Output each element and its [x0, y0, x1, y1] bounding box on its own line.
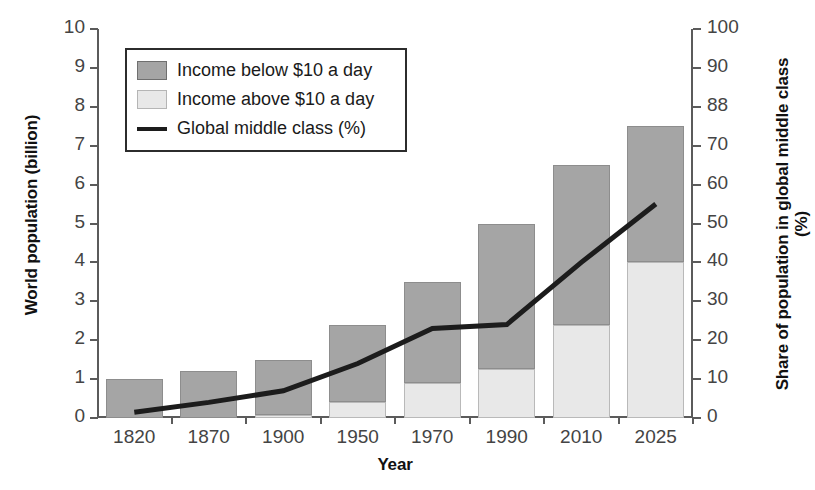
x-axis-tick-mark — [469, 418, 471, 424]
y-axis-right-tick-label: 10 — [707, 366, 759, 388]
y-axis-right-tick-label: 90 — [707, 55, 759, 77]
legend-item-middle-class: Global middle class (%) — [137, 114, 395, 143]
y-axis-right-tick-label: 0 — [707, 405, 759, 427]
y-axis-right-tick-mark — [693, 417, 701, 419]
x-axis-tick-mark — [543, 418, 545, 424]
y-axis-right-tick-label: 30 — [707, 288, 759, 310]
y-axis-right-tick-mark — [693, 223, 701, 225]
x-axis-tick-mark — [618, 418, 620, 424]
y-axis-left-tick-label: 0 — [39, 405, 85, 427]
y-axis-left-tick-label: 4 — [39, 249, 85, 271]
x-axis-tick-label: 1970 — [392, 426, 472, 448]
x-axis-tick-mark — [320, 418, 322, 424]
x-axis-tick-mark — [692, 418, 694, 424]
x-axis-tick-label: 2025 — [616, 426, 696, 448]
y-axis-left-tick-label: 8 — [39, 94, 85, 116]
x-axis-tick-mark — [245, 418, 247, 424]
y-axis-left-tick-label: 9 — [39, 55, 85, 77]
legend-item-label: Global middle class (%) — [177, 118, 366, 139]
y-axis-right-tick-mark — [693, 67, 701, 69]
y-axis-left-tick-label: 10 — [39, 16, 85, 38]
y-axis-right-tick-mark — [693, 106, 701, 108]
square-light-swatch-icon — [137, 90, 167, 109]
y-axis-right-tick-mark — [693, 184, 701, 186]
y-axis-left-tick-label: 6 — [39, 172, 85, 194]
y-axis-left-tick-label: 7 — [39, 133, 85, 155]
legend-item-income-above: Income above $10 a day — [137, 85, 395, 114]
y-axis-right-tick-label: 100 — [707, 16, 759, 38]
y-axis-right-tick-mark — [693, 261, 701, 263]
y-axis-left-tick-label: 2 — [39, 327, 85, 349]
y-axis-right-tick-label: 88 — [707, 94, 759, 116]
y-axis-left-tick-label: 1 — [39, 366, 85, 388]
legend-item-label: Income below $10 a day — [177, 60, 372, 81]
x-axis-tick-label: 1870 — [169, 426, 249, 448]
x-axis-tick-label: 2010 — [541, 426, 621, 448]
y-axis-right-tick-mark — [693, 28, 701, 30]
x-axis-title: Year — [97, 455, 693, 475]
y-axis-right-tick-label: 40 — [707, 249, 759, 271]
y-axis-right-tick-mark — [693, 145, 701, 147]
x-axis-tick-label: 1950 — [318, 426, 398, 448]
y-axis-right-tick-label: 50 — [707, 211, 759, 233]
y-axis-right-tick-label: 70 — [707, 133, 759, 155]
y-axis-left-tick-label: 3 — [39, 288, 85, 310]
chart-container: World population (billion) Share of popu… — [0, 0, 815, 490]
line-swatch-icon — [137, 119, 167, 138]
y-axis-right-tick-label: 20 — [707, 327, 759, 349]
y-axis-right-tick-label: 60 — [707, 172, 759, 194]
y-axis-left-tick-label: 5 — [39, 211, 85, 233]
legend-item-income-below: Income below $10 a day — [137, 56, 395, 85]
chart-legend: Income below $10 a day Income above $10 … — [125, 48, 407, 152]
legend-item-label: Income above $10 a day — [177, 89, 374, 110]
x-axis-tick-label: 1900 — [243, 426, 323, 448]
y-axis-right-title: Share of population in global middle cla… — [773, 44, 811, 404]
y-axis-right-tick-mark — [693, 378, 701, 380]
y-axis-right-tick-mark — [693, 300, 701, 302]
square-dark-swatch-icon — [137, 61, 167, 80]
x-axis-tick-mark — [394, 418, 396, 424]
x-axis-tick-label: 1990 — [467, 426, 547, 448]
x-axis-tick-mark — [171, 418, 173, 424]
x-axis-tick-label: 1820 — [94, 426, 174, 448]
y-axis-right-tick-mark — [693, 339, 701, 341]
